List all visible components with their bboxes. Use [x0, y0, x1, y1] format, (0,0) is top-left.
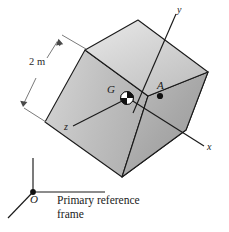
figure-cube-reference-frame: y x z G A 2 m O Primary reference frame [0, 0, 229, 232]
axis-label-y: y [177, 5, 181, 15]
dimension-arrow-bottom [20, 101, 27, 107]
point-label-a: A [157, 80, 164, 91]
axis-label-x: x [207, 142, 211, 152]
center-of-mass-symbol [121, 92, 134, 105]
dimension-extension-top [62, 35, 86, 49]
origin-label: O [30, 194, 38, 205]
point-a-marker [157, 93, 163, 99]
dimension-label-2m: 2 m [29, 57, 45, 68]
axis-label-z: z [64, 122, 68, 132]
point-label-g: G [107, 84, 115, 95]
dimension-line-upper [47, 42, 57, 58]
dimension-extension-bottom [24, 108, 46, 122]
dimension-line-lower [24, 78, 36, 103]
primary-reference-frame-caption: Primary reference frame [57, 193, 140, 221]
